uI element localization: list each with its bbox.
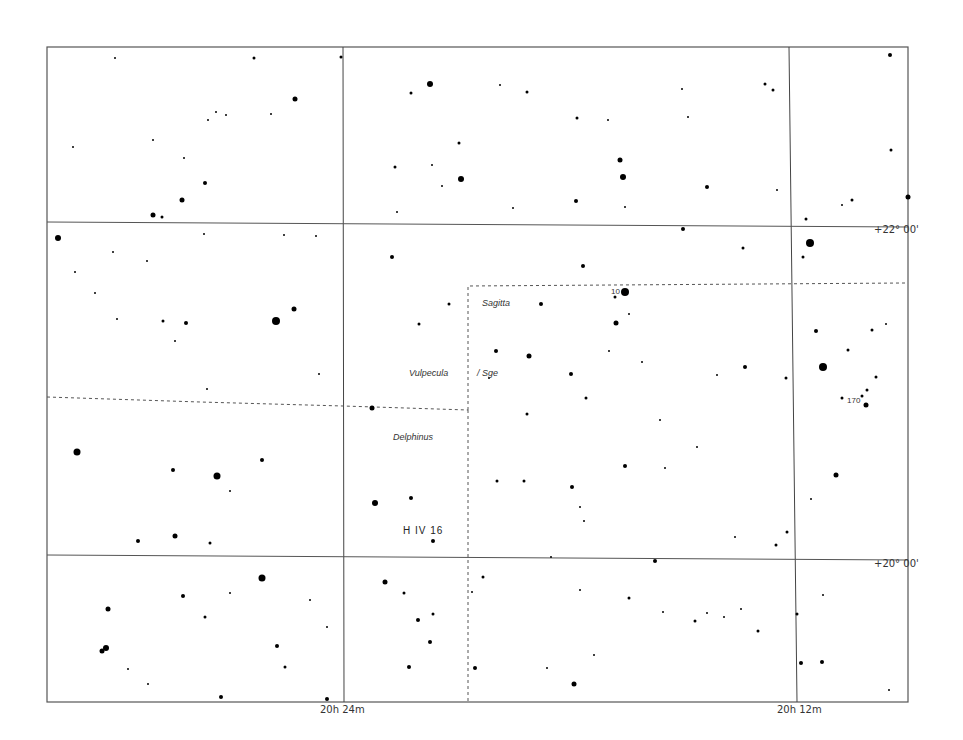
constellation-label-vulpecula: Vulpecula — [409, 368, 448, 378]
star — [572, 682, 577, 687]
star — [776, 189, 778, 191]
star — [184, 321, 188, 325]
constellation-boundaries — [47, 283, 905, 702]
star — [866, 389, 869, 392]
star — [664, 467, 666, 469]
star — [819, 363, 827, 371]
star — [209, 542, 212, 545]
star — [659, 419, 661, 421]
star — [864, 403, 869, 408]
star — [581, 264, 585, 268]
star — [764, 83, 767, 86]
star — [757, 630, 760, 633]
star — [820, 660, 824, 664]
star — [694, 620, 697, 623]
star — [272, 317, 280, 325]
star — [662, 611, 664, 613]
star — [723, 616, 725, 618]
star — [906, 195, 911, 200]
star — [203, 233, 205, 235]
star — [418, 323, 421, 326]
star — [743, 365, 747, 369]
star — [620, 174, 626, 180]
star — [394, 166, 397, 169]
ra-grid-line — [343, 47, 344, 702]
star — [716, 374, 718, 376]
star — [390, 255, 394, 259]
star — [173, 534, 178, 539]
constellation-label-sagitta: Sagitta — [482, 298, 510, 308]
star — [834, 473, 839, 478]
star — [527, 354, 532, 359]
dec-grid-line — [47, 222, 908, 227]
star — [74, 271, 76, 273]
constellation-label-sge: / Sge — [477, 368, 498, 378]
star — [888, 689, 890, 691]
star — [55, 235, 61, 241]
star — [885, 323, 887, 325]
star — [623, 464, 627, 468]
ra-label-20h24m: 20h 24m — [320, 704, 365, 715]
star — [428, 640, 432, 644]
star — [106, 607, 111, 612]
star — [593, 654, 595, 656]
star — [641, 361, 643, 363]
star — [152, 139, 154, 141]
star — [180, 198, 185, 203]
star — [583, 520, 585, 522]
star — [203, 181, 207, 185]
star — [416, 618, 420, 622]
star — [681, 227, 685, 231]
dec-grid-line — [47, 555, 908, 560]
star — [151, 213, 156, 218]
star — [127, 668, 129, 670]
star — [550, 556, 552, 558]
star — [259, 575, 266, 582]
star — [653, 559, 657, 563]
star — [802, 256, 805, 259]
star — [146, 260, 148, 262]
star — [786, 531, 789, 534]
star — [253, 57, 256, 60]
star — [370, 406, 375, 411]
star — [326, 626, 328, 628]
star — [309, 599, 311, 601]
star — [696, 446, 698, 448]
star — [810, 498, 812, 500]
star — [161, 216, 164, 219]
star — [293, 97, 298, 102]
star — [403, 592, 406, 595]
star — [681, 88, 683, 90]
star — [114, 57, 116, 59]
star — [796, 613, 799, 616]
star — [275, 644, 279, 648]
ra-grid-line — [789, 47, 797, 702]
star — [705, 185, 709, 189]
star — [851, 199, 854, 202]
constellation-boundary — [468, 283, 905, 410]
star — [206, 388, 208, 390]
star — [225, 114, 227, 116]
star — [523, 480, 526, 483]
star — [585, 397, 588, 400]
star — [624, 206, 626, 208]
star — [372, 500, 378, 506]
star — [805, 218, 808, 221]
star — [574, 199, 578, 203]
sge-abbrev: Sge — [482, 368, 498, 378]
star-label-170: 170 — [847, 396, 860, 405]
star — [292, 307, 297, 312]
star — [284, 666, 287, 669]
dec-label-plus20: +20° 00' — [874, 558, 919, 569]
star — [383, 580, 388, 585]
star — [432, 613, 435, 616]
star — [270, 113, 272, 115]
star — [171, 468, 175, 472]
star — [215, 111, 217, 113]
star — [628, 597, 631, 600]
star — [94, 292, 96, 294]
star — [174, 340, 176, 342]
star — [74, 449, 81, 456]
star — [847, 349, 850, 352]
ra-label-20h12m: 20h 12m — [777, 704, 822, 715]
